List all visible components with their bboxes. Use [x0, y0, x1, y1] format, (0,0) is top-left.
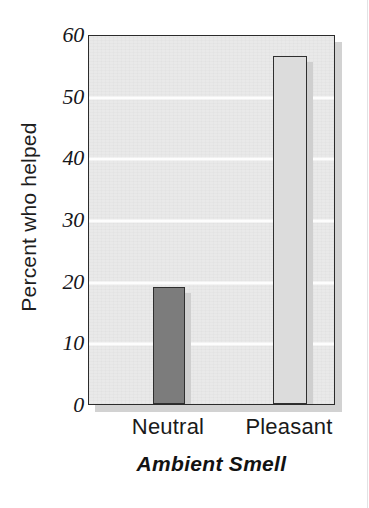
y-axis-tick-label: 40: [62, 145, 84, 171]
bar-chart-figure: Percent who helped 0102030405060 Neutral…: [0, 0, 369, 508]
x-axis-category-label: Pleasant: [245, 414, 332, 440]
plot-area: [88, 35, 335, 405]
scan-edge-line: [367, 0, 368, 508]
x-axis-category-label: Neutral: [132, 414, 204, 440]
x-axis-title: Ambient Smell: [88, 452, 335, 476]
bar-neutral: [153, 287, 185, 404]
x-axis-category-labels: NeutralPleasant: [88, 414, 335, 446]
y-axis-tick-label: 60: [62, 22, 84, 48]
y-axis-tick-label: 30: [62, 207, 84, 233]
y-axis-tick-label: 10: [62, 330, 84, 356]
y-axis-tick-label: 50: [62, 84, 84, 110]
y-axis-title: Percent who helped: [14, 112, 44, 322]
bar-pleasant: [273, 56, 307, 404]
y-axis-tick-labels: 0102030405060: [44, 35, 84, 405]
y-axis-tick-label: 0: [73, 392, 84, 418]
y-axis-tick-label: 20: [62, 269, 84, 295]
